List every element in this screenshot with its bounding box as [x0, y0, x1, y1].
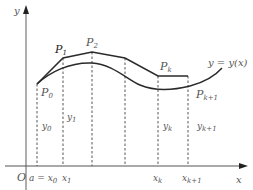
curve-y-of-x — [37, 63, 222, 89]
label-p2: P2 — [85, 36, 98, 50]
polyline-approximation-diagram: P0 P1 P2 Pk Pk+1 y = y(x) y x O a = x0 x… — [0, 0, 253, 190]
tick-xk: xk — [153, 173, 162, 185]
tick-x1: x1 — [62, 173, 72, 185]
origin-label: O — [17, 171, 26, 184]
label-p1: P1 — [54, 43, 67, 57]
y-axis-label: y — [13, 5, 20, 16]
ordinate-y1: y1 — [66, 112, 77, 124]
x-axis-arrow-icon — [239, 163, 248, 169]
tick-xk1: xk+1 — [182, 173, 202, 185]
ordinate-labels: y0 y1 yk yk+1 — [41, 112, 217, 133]
curve-label: y = y(x) — [207, 57, 248, 68]
label-pk1: Pk+1 — [195, 88, 218, 102]
point-labels: P0 P1 P2 Pk Pk+1 — [40, 36, 218, 102]
y-axis-arrow-icon — [23, 5, 29, 14]
x-tick-labels: a = x0 x1 xk xk+1 — [29, 173, 202, 185]
x-axis-label: x — [236, 174, 242, 185]
ordinate-y0: y0 — [41, 121, 52, 133]
label-pk: Pk — [159, 60, 172, 74]
tick-x0: a = x0 — [29, 173, 58, 185]
label-p0: P0 — [40, 86, 53, 100]
ordinate-yk1: yk+1 — [196, 121, 217, 133]
ordinate-yk: yk — [162, 121, 172, 133]
